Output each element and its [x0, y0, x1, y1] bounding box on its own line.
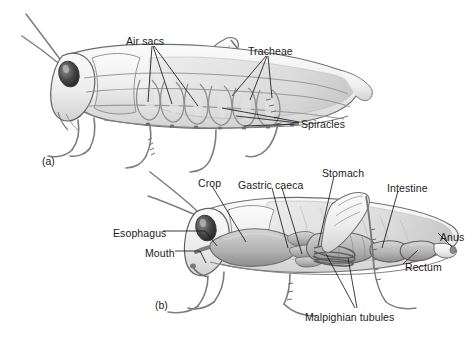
label-stomach: Stomach [322, 168, 364, 179]
label-malpighian-tubules: Malpighian tubules [305, 312, 394, 323]
mouth-opening-b [190, 264, 196, 269]
label-esophagus: Esophagus [113, 228, 166, 239]
anus-opening-b [450, 247, 456, 254]
label-rectum: Rectum [405, 262, 442, 273]
label-spiracles: Spiracles [301, 119, 345, 130]
antenna-group-b [148, 172, 198, 216]
label-air-sacs: Air sacs [126, 36, 164, 47]
legs-b [168, 272, 316, 316]
panel-label-a: (a) [42, 156, 55, 167]
antenna-group-a [22, 14, 62, 66]
label-crop: Crop [198, 178, 221, 189]
grasshopper-anatomy-figure: Air sacs Tracheae Spiracles (a) Crop Gas… [0, 0, 476, 337]
label-tracheae: Tracheae [248, 46, 293, 57]
label-gastric-caeca: Gastric caeca [238, 180, 304, 191]
panel-a-illustration [22, 14, 372, 172]
label-intestine: Intestine [387, 183, 428, 194]
label-anus: Anus [440, 232, 464, 243]
figure-illustration [0, 0, 476, 337]
label-mouth: Mouth [145, 248, 175, 259]
panel-label-b: (b) [155, 300, 168, 311]
